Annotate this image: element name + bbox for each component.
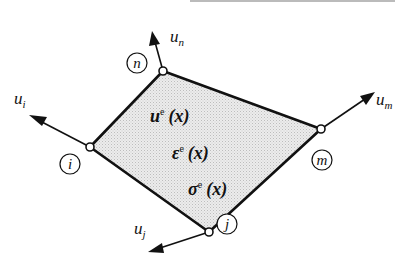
displacement-label-m: um [376,90,393,111]
displacement-label-i: ui [14,89,26,110]
svg-text:n: n [133,55,141,71]
field-label-strain: εe(x) [172,143,209,164]
node-label-n: n [127,53,147,73]
field-label-displacement: ue(x) [150,106,189,127]
displacement-arrow-m [321,92,375,129]
node-i [86,143,94,151]
displacement-arrow-i [29,115,90,147]
displacement-arrow-n [149,31,163,71]
displacement-label-n: un [170,27,185,48]
finite-element-diagram: n i m j un ui um uj ue(x) εe(x) σe(x) [0,0,415,269]
node-label-j: j [217,214,237,234]
displacement-arrow-j [148,232,209,253]
svg-text:i: i [68,156,72,172]
node-m [317,125,325,133]
field-label-stress: σe(x) [188,179,227,200]
svg-text:m: m [317,152,328,168]
node-j [205,228,213,236]
node-n [159,67,167,75]
displacement-label-j: uj [134,219,146,240]
node-label-m: m [312,150,332,170]
node-label-i: i [60,154,80,174]
